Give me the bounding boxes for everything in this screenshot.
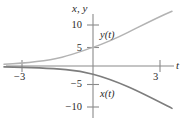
x-tick-label-3: 3 — [153, 72, 158, 83]
y-tick-label-5: 5 — [56, 43, 82, 54]
curve-y-of-t — [4, 11, 172, 64]
plot-area — [0, 0, 188, 123]
curve-x-of-t — [4, 67, 172, 109]
figure-canvas: x, y t 10 5 −5 −10 −3 3 y(t) x(t) — [0, 0, 188, 123]
curve-label-x: x(t) — [100, 89, 115, 100]
curve-label-y: y(t) — [100, 30, 115, 41]
horizontal-axis-label: t — [176, 60, 179, 71]
y-tick-label-10: 10 — [56, 20, 82, 31]
y-tick-label-neg10: −10 — [52, 102, 82, 113]
x-tick-label-neg3: −3 — [14, 72, 25, 83]
y-tick-label-neg5: −5 — [52, 79, 82, 90]
vertical-axis-label: x, y — [72, 3, 87, 14]
